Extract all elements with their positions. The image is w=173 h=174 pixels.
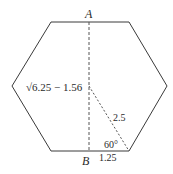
label-half-side: 1.25 <box>99 152 117 163</box>
label-b: B <box>82 154 90 168</box>
hexagon-diagram: A B √6.25 − 1.56 2.5 1.25 60° <box>0 0 173 174</box>
label-height-expression: √6.25 − 1.56 <box>26 81 83 93</box>
label-angle: 60° <box>104 139 118 150</box>
label-a: A <box>84 7 93 21</box>
label-side-length: 2.5 <box>113 112 126 123</box>
